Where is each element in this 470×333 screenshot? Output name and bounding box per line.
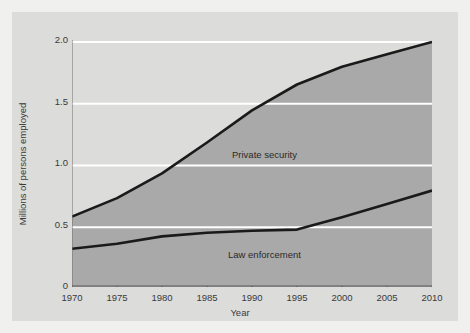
x-tick-label-2010: 2010: [421, 292, 442, 303]
x-tick-label-2000: 2000: [331, 292, 352, 303]
x-tick-label-1995: 1995: [286, 292, 307, 303]
series-label-private-security: Private security: [232, 149, 297, 160]
chart-figure: Private security Law enforcement 2.0 1.5…: [0, 0, 470, 333]
y-axis-title: Millions of persons employed: [17, 103, 28, 226]
y-tick-label-1-5: 1.5: [40, 97, 68, 107]
x-tick-label-1980: 1980: [151, 292, 172, 303]
x-tick-label-1985: 1985: [196, 292, 217, 303]
y-tick-label-group: 2.0 1.5 1.0 0.5 0: [40, 0, 68, 333]
y-tick-label-0: 0: [40, 281, 68, 291]
x-tick-label-1970: 1970: [61, 292, 82, 303]
x-tick-label-1975: 1975: [106, 292, 127, 303]
x-tick-label-2005: 2005: [376, 292, 397, 303]
y-tick-label-0-5: 0.5: [40, 220, 68, 230]
y-tick-label-1-0: 1.0: [40, 158, 68, 168]
x-tick-label-1990: 1990: [241, 292, 262, 303]
series-label-law-enforcement: Law enforcement: [228, 249, 301, 260]
x-tick-label-group: 1970 1975 1980 1985 1990 1995 2000 2005 …: [0, 292, 470, 306]
x-axis-title: Year: [230, 307, 249, 318]
y-tick-label-2-0: 2.0: [40, 35, 68, 45]
